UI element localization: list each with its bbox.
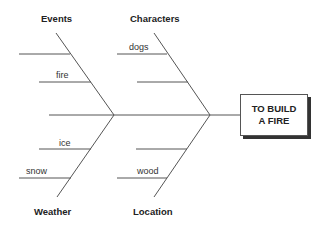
effect-line-1: TO BUILD [252, 103, 297, 115]
category-events: Events [41, 13, 72, 24]
category-characters: Characters [130, 13, 180, 24]
cause-dogs: dogs [129, 42, 149, 52]
category-weather: Weather [34, 206, 71, 217]
bone-characters [154, 33, 210, 115]
bone-location [154, 115, 210, 197]
cause-wood: wood [137, 166, 159, 176]
effect-line-2: A FIRE [259, 115, 290, 127]
cause-snow: snow [26, 166, 47, 176]
cause-ice: ice [59, 138, 71, 148]
effect-box: TO BUILD A FIRE [240, 94, 308, 136]
cause-fire: fire [56, 70, 69, 80]
category-location: Location [133, 206, 173, 217]
bone-weather [57, 115, 114, 197]
